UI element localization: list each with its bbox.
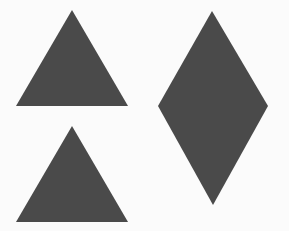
shapes-canvas [0,0,289,231]
